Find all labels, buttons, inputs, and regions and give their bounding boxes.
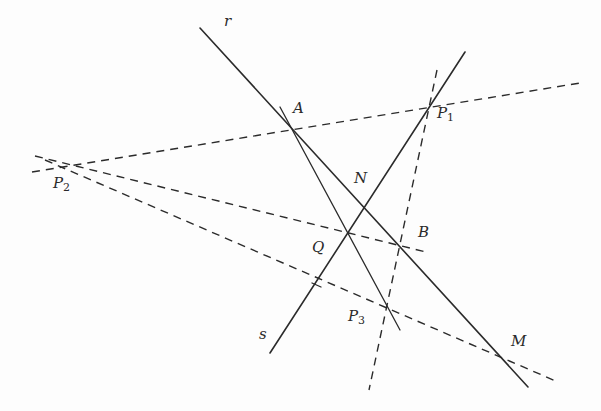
label-point-n: N: [354, 171, 367, 186]
geometry-diagram: r s A P1 P2 N Q B P3 M: [0, 0, 601, 411]
label-point-p3: P3: [348, 309, 365, 326]
label-p2-letter: P: [53, 174, 63, 192]
label-point-q: Q: [312, 240, 324, 255]
dashed-line-p2-m: [45, 160, 558, 382]
label-point-m: M: [511, 334, 526, 349]
label-p1-subscript: 1: [447, 111, 454, 124]
label-p3-letter: P: [348, 307, 358, 325]
label-point-p2: P2: [53, 176, 70, 193]
label-line-s: s: [259, 327, 267, 342]
label-point-b: B: [418, 225, 429, 240]
label-p2-subscript: 2: [63, 181, 70, 194]
dashed-line-p2-p1: [32, 83, 580, 172]
label-line-r: r: [224, 14, 231, 29]
line-a-p3: [280, 107, 400, 330]
label-p3-subscript: 3: [358, 314, 365, 327]
label-point-p1: P1: [437, 106, 454, 123]
label-p1-letter: P: [437, 104, 447, 122]
label-point-a: A: [293, 101, 304, 116]
line-s: [270, 52, 465, 353]
